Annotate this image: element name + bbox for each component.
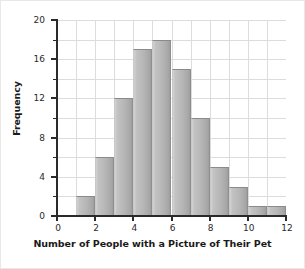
- x-tick-label: 4: [119, 223, 149, 233]
- x-tick: [285, 215, 287, 221]
- y-tick-major: [51, 137, 58, 139]
- y-tick-major: [51, 19, 58, 21]
- y-tick-label: 0: [5, 211, 45, 221]
- x-tick-label: 0: [43, 223, 73, 233]
- plot-area: [57, 20, 286, 216]
- y-axis-title-text: Frequency: [11, 81, 22, 136]
- bar: [210, 167, 229, 216]
- y-tick-minor: [53, 118, 58, 119]
- y-tick-minor: [53, 157, 58, 158]
- y-tick-minor: [53, 40, 58, 41]
- bar: [114, 98, 133, 216]
- y-tick-major: [51, 58, 58, 60]
- bar: [172, 69, 191, 216]
- y-tick-major: [51, 97, 58, 99]
- x-tick: [209, 215, 211, 221]
- bar: [152, 40, 171, 216]
- x-tick: [132, 215, 134, 221]
- x-tick-label: 2: [81, 223, 111, 233]
- x-tick-label: 6: [158, 223, 188, 233]
- x-tick: [56, 215, 58, 221]
- y-axis-title: Frequency: [5, 1, 27, 216]
- histogram-figure: Frequency 048121620 024681012 Number of …: [0, 0, 305, 269]
- y-tick-label: 8: [5, 133, 45, 143]
- x-tick-label: 10: [234, 223, 264, 233]
- x-tick-label: 8: [196, 223, 226, 233]
- bar: [95, 157, 114, 216]
- x-tick-label: 12: [272, 223, 302, 233]
- y-tick-minor: [53, 196, 58, 197]
- bar: [191, 118, 210, 216]
- y-tick-label: 12: [5, 93, 45, 103]
- x-axis-title: Number of People with a Picture of Their…: [1, 238, 304, 249]
- y-tick-label: 4: [5, 172, 45, 182]
- x-tick: [171, 215, 173, 221]
- bar: [229, 187, 248, 216]
- y-tick-major: [51, 176, 58, 178]
- bar: [133, 49, 152, 216]
- y-tick-label: 20: [5, 15, 45, 25]
- x-tick: [94, 215, 96, 221]
- x-tick: [247, 215, 249, 221]
- bar-series: [57, 20, 286, 216]
- y-tick-label: 16: [5, 54, 45, 64]
- y-tick-minor: [53, 79, 58, 80]
- bar: [76, 196, 95, 216]
